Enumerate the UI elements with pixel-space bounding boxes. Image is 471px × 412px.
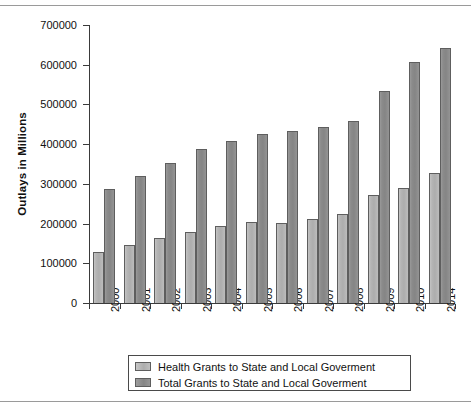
bar (307, 219, 318, 303)
bar (368, 195, 379, 303)
top-divider (0, 5, 471, 6)
bar (440, 48, 451, 303)
legend-label: Health Grants to State and Local Goverme… (158, 361, 375, 373)
bar (165, 163, 176, 303)
bar (257, 134, 268, 303)
bar (379, 91, 390, 303)
plot-area (89, 25, 455, 303)
bar (409, 62, 420, 303)
legend-item: Total Grants to State and Local Govermen… (135, 375, 404, 390)
bar (215, 226, 226, 303)
legend-swatch-total (135, 378, 151, 387)
bar (226, 141, 237, 303)
y-axis-tick-label: 400000 (15, 144, 77, 145)
bar (276, 223, 287, 303)
bar (154, 238, 165, 303)
y-axis-tick-label: 100000 (15, 263, 77, 264)
x-axis-tick (89, 304, 90, 309)
chart-legend: Health Grants to State and Local Goverme… (128, 355, 411, 391)
y-axis-tick-label: 600000 (15, 65, 77, 66)
bar (398, 188, 409, 303)
y-axis-tick-label: 300000 (15, 184, 77, 185)
bar (318, 127, 329, 303)
bar (246, 222, 257, 303)
y-axis-tick-label: 700000 (15, 25, 77, 26)
bar (196, 149, 207, 303)
bar (287, 131, 298, 303)
bar (135, 176, 146, 303)
y-axis-tick-label: 0 (15, 303, 77, 304)
y-axis-tick-label: 200000 (15, 224, 77, 225)
y-axis-tick-label: 500000 (15, 104, 77, 105)
bar (93, 252, 104, 303)
bar (337, 214, 348, 303)
bar (124, 245, 135, 303)
legend-item: Health Grants to State and Local Goverme… (135, 359, 404, 374)
legend-label: Total Grants to State and Local Govermen… (158, 377, 367, 389)
bar (348, 121, 359, 303)
bottom-divider (0, 401, 471, 402)
bar (185, 232, 196, 303)
bar-chart-figure: Outlays in Millions 01000002000003000004… (0, 0, 471, 412)
bar (429, 173, 440, 303)
legend-swatch-health (135, 362, 151, 371)
bar (104, 189, 115, 303)
